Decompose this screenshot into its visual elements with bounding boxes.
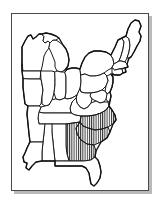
map-frame — [11, 13, 149, 191]
state-michigan[interactable] — [49, 40, 69, 72]
state-florida[interactable] — [55, 157, 101, 186]
state-missouri[interactable] — [23, 79, 43, 106]
eastern-us-map[interactable] — [12, 14, 148, 190]
state-indiana[interactable] — [54, 71, 66, 100]
state-pennsylvania[interactable] — [80, 73, 108, 93]
state-new-york[interactable] — [80, 51, 114, 76]
map-figure — [0, 0, 163, 204]
